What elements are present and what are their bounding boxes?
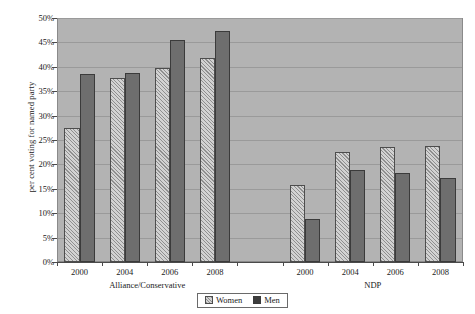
bar-women-2008 xyxy=(425,146,440,262)
x-tick-mark xyxy=(418,262,419,266)
bar-men-2000 xyxy=(305,219,320,262)
bar-group xyxy=(373,18,418,262)
bar-group xyxy=(192,18,237,262)
bar-group xyxy=(57,18,102,262)
x-tick-mark xyxy=(328,262,329,266)
x-tick-label: 2006 xyxy=(373,267,417,277)
legend-swatch-icon xyxy=(205,296,213,304)
y-tick-label: 15% xyxy=(14,184,54,194)
y-tick-label: 50% xyxy=(14,13,54,23)
y-tick-label: 20% xyxy=(14,159,54,169)
bar-women-2008 xyxy=(200,58,215,262)
x-tick-mark xyxy=(373,262,374,266)
bar-group xyxy=(418,18,463,262)
bar-women-2006 xyxy=(380,147,395,262)
bar-men-2004 xyxy=(125,73,140,262)
bar-chart: per cent voting for named party 0%5%10%1… xyxy=(0,0,475,314)
x-tick-label: 2000 xyxy=(283,267,327,277)
bar-men-2006 xyxy=(395,173,410,262)
x-tick-label: 2004 xyxy=(103,267,147,277)
x-tick-mark xyxy=(192,262,193,266)
bar-women-2000 xyxy=(64,128,79,262)
x-tick-label: 2006 xyxy=(148,267,192,277)
legend-entry-men: Men xyxy=(253,295,280,305)
bar-group xyxy=(147,18,192,262)
x-axis-line xyxy=(57,262,463,263)
x-tick-label: 2008 xyxy=(418,267,462,277)
bar-men-2004 xyxy=(350,170,365,262)
x-tick-mark xyxy=(147,262,148,266)
x-tick-mark xyxy=(283,262,284,266)
x-tick-label: 2000 xyxy=(58,267,102,277)
bar-men-2006 xyxy=(170,40,185,262)
bar-men-2000 xyxy=(80,74,95,262)
y-tick-label: 40% xyxy=(14,62,54,72)
bar-group xyxy=(102,18,147,262)
legend-swatch-icon xyxy=(253,296,261,304)
bar-group xyxy=(283,18,328,262)
y-tick-label: 5% xyxy=(14,233,54,243)
x-tick-label: 2008 xyxy=(193,267,237,277)
x-group-label: NDP xyxy=(293,280,453,290)
legend-label: Women xyxy=(216,295,242,305)
x-tick-mark xyxy=(102,262,103,266)
y-tick-label: 25% xyxy=(14,135,54,145)
chart-legend: WomenMen xyxy=(197,293,288,308)
y-tick-label: 0% xyxy=(14,257,54,267)
bar-men-2008 xyxy=(440,178,455,262)
bar-group xyxy=(237,18,282,262)
bar-women-2000 xyxy=(290,185,305,262)
legend-label: Men xyxy=(264,295,280,305)
bar-men-2008 xyxy=(215,31,230,262)
x-tick-label: 2004 xyxy=(328,267,372,277)
bar-group xyxy=(328,18,373,262)
y-tick-label: 45% xyxy=(14,37,54,47)
bars-layer xyxy=(57,18,463,262)
y-tick-label: 35% xyxy=(14,86,54,96)
bar-women-2004 xyxy=(110,78,125,262)
x-tick-mark xyxy=(57,262,58,266)
x-group-label: Alliance/Conservative xyxy=(67,280,227,290)
bar-women-2006 xyxy=(155,68,170,262)
y-tick-label: 10% xyxy=(14,208,54,218)
legend-entry-women: Women xyxy=(205,295,242,305)
x-tick-mark xyxy=(237,262,238,266)
bar-women-2004 xyxy=(335,152,350,262)
x-tick-mark xyxy=(463,262,464,266)
y-tick-label: 30% xyxy=(14,111,54,121)
